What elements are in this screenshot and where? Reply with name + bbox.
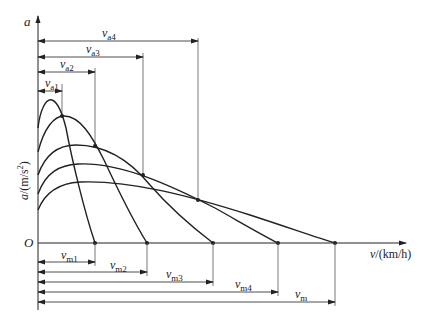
curve-gear-5 (38, 182, 335, 243)
dim-label-vm4: vm4 (235, 277, 252, 293)
curve-gear-4 (38, 164, 278, 243)
dim-label-va3: va3 (86, 42, 100, 58)
dim-label-va4: va4 (102, 26, 116, 42)
axes (38, 16, 406, 310)
dim-label-va1: va1 (45, 76, 59, 92)
bottom-dimension-arrows (38, 262, 335, 302)
x-axis-label: v/(km/h) (370, 247, 411, 261)
dim-label-vm1: vm1 (61, 248, 78, 264)
dim-label-vm3: vm3 (166, 267, 183, 283)
acceleration-curves (38, 100, 335, 243)
dim-label-vm: vm (295, 287, 307, 303)
curve-gear-1 (38, 100, 95, 243)
dim-label-vm2: vm2 (110, 258, 127, 274)
curve-gear-2 (38, 116, 147, 243)
y-axis-symbol: a (24, 14, 31, 29)
top-extension-lines (62, 38, 198, 200)
diagram-svg: va1 va2 va3 va4 vm1 vm2 (0, 0, 427, 324)
origin-label: O (24, 235, 34, 250)
dim-label-va2: va2 (60, 57, 74, 73)
key-points (60, 114, 337, 245)
y-axis-label: a/(m/s2) (16, 161, 31, 200)
acceleration-speed-diagram: va1 va2 va3 va4 vm1 vm2 (0, 0, 427, 324)
